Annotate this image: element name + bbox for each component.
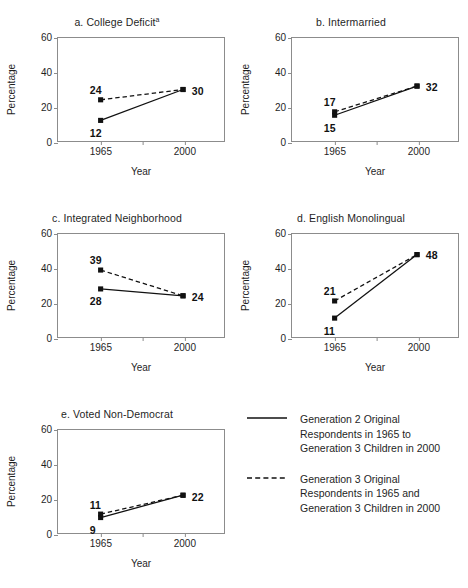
panel-title: c. Integrated Neighborhood (0, 212, 234, 224)
chart-panel-d: d. English MonolingualPercentageYear0204… (234, 196, 468, 392)
series-line-solid (101, 289, 183, 296)
panel-title: e. Voted Non-Democrat (0, 408, 234, 420)
y-axis-tick-label: 40 (41, 460, 58, 470)
y-axis-tick-label: 40 (41, 264, 58, 274)
dashed-line-swatch (246, 475, 288, 487)
data-value-label: 9 (90, 525, 96, 536)
chart-panel-a: a. College DeficitaPercentageYear0204060… (0, 0, 234, 196)
series-line-solid (101, 495, 183, 517)
data-point-marker (414, 252, 419, 257)
series-line-solid (335, 255, 417, 319)
y-axis-tick-label: 0 (280, 138, 292, 148)
x-axis-label: Year (291, 362, 459, 373)
data-point-marker (98, 97, 103, 102)
figure-panel-grid: a. College DeficitaPercentageYear0204060… (0, 0, 468, 588)
data-value-label: 30 (192, 86, 204, 97)
x-axis-tick-label: 2000 (174, 141, 196, 157)
data-point-marker (98, 118, 103, 123)
y-axis-tick-label: 20 (41, 103, 58, 113)
panel-title: b. Intermarried (234, 16, 468, 28)
x-axis-tick-minor (375, 337, 378, 353)
y-axis-tick-label: 20 (41, 299, 58, 309)
chart-panel-e: e. Voted Non-DemocratPercentageYear02040… (0, 392, 234, 588)
chart-panel-b: b. IntermarriedPercentageYear02040601965… (234, 0, 468, 196)
x-axis-label: Year (57, 558, 225, 569)
y-axis-label: Percentage (240, 37, 254, 142)
data-value-label: 24 (192, 292, 204, 303)
data-value-label: 15 (324, 123, 336, 134)
data-value-label: 28 (90, 296, 102, 307)
y-axis-tick-label: 60 (41, 229, 58, 239)
x-axis-tick-minor (141, 141, 144, 157)
y-axis-label: Percentage (6, 233, 20, 338)
data-point-marker (98, 286, 103, 291)
x-axis-tick-label: 2000 (408, 141, 430, 157)
y-axis-tick-label: 20 (275, 103, 292, 113)
chart-legend: Generation 2 Original Respondents in 196… (246, 412, 462, 531)
y-axis-label: Percentage (6, 429, 20, 534)
series-line-solid (335, 86, 417, 115)
x-axis-tick-label: 1965 (324, 337, 346, 353)
solid-line-swatch (246, 415, 288, 427)
series-layer (58, 430, 224, 533)
x-axis-tick-minor (141, 533, 144, 549)
x-axis-label: Year (57, 362, 225, 373)
x-axis-label: Year (57, 166, 225, 177)
x-axis-label: Year (291, 166, 459, 177)
plot-area: 02040601965 2000211148 (291, 233, 459, 338)
data-point-marker (180, 293, 185, 298)
x-axis-tick-label: 2000 (174, 337, 196, 353)
data-point-marker (414, 84, 419, 89)
x-axis-tick-label: 2000 (174, 533, 196, 549)
data-point-marker (180, 493, 185, 498)
y-axis-tick-label: 60 (41, 33, 58, 43)
series-line-dashed (335, 255, 417, 301)
data-value-label: 17 (324, 97, 336, 108)
y-axis-tick-label: 40 (275, 264, 292, 274)
chart-panel-c: c. Integrated NeighborhoodPercentageYear… (0, 196, 234, 392)
series-layer (58, 234, 224, 337)
y-axis-tick-label: 40 (275, 68, 292, 78)
plot-area: 02040601965 2000392824 (57, 233, 225, 338)
legend-label: Generation 3 Original Respondents in 196… (300, 472, 460, 516)
data-value-label: 22 (192, 492, 204, 503)
data-value-label: 32 (426, 82, 438, 93)
data-point-marker (332, 109, 337, 114)
legend-label: Generation 2 Original Respondents in 196… (300, 412, 460, 456)
y-axis-tick-label: 40 (41, 68, 58, 78)
y-axis-tick-label: 0 (280, 334, 292, 344)
legend-item: Generation 3 Original Respondents in 196… (246, 472, 462, 516)
y-axis-tick-label: 0 (46, 334, 58, 344)
data-point-marker (180, 87, 185, 92)
panel-title: a. College Deficita (0, 16, 234, 28)
data-value-label: 11 (324, 326, 335, 337)
data-point-marker (332, 298, 337, 303)
x-axis-tick-label: 1965 (90, 337, 112, 353)
data-point-marker (98, 267, 103, 272)
y-axis-tick-label: 20 (275, 299, 292, 309)
data-value-label: 12 (90, 128, 102, 139)
data-value-label: 11 (90, 500, 101, 511)
y-axis-tick-label: 60 (275, 229, 292, 239)
x-axis-tick-minor (375, 141, 378, 157)
y-axis-label: Percentage (240, 233, 254, 338)
data-value-label: 48 (426, 250, 438, 261)
data-point-marker (98, 512, 103, 517)
y-axis-tick-label: 0 (46, 138, 58, 148)
x-axis-tick-label: 1965 (324, 141, 346, 157)
x-axis-tick-label: 2000 (408, 337, 430, 353)
y-axis-label: Percentage (6, 37, 20, 142)
data-value-label: 39 (90, 255, 102, 266)
y-axis-tick-label: 0 (46, 530, 58, 540)
data-point-marker (332, 316, 337, 321)
data-value-label: 21 (324, 286, 336, 297)
y-axis-tick-label: 60 (275, 33, 292, 43)
title-superscript: a (156, 16, 160, 23)
series-line-solid (101, 90, 183, 121)
legend-item: Generation 2 Original Respondents in 196… (246, 412, 462, 456)
data-value-label: 24 (90, 85, 102, 96)
x-axis-tick-label: 1965 (90, 141, 112, 157)
y-axis-tick-label: 20 (41, 495, 58, 505)
plot-area: 02040601965 200011922 (57, 429, 225, 534)
x-axis-tick-minor (141, 337, 144, 353)
